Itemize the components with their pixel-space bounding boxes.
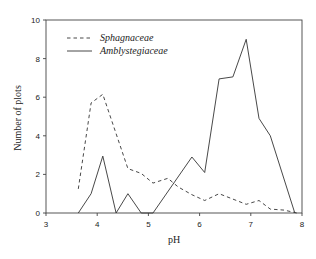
y-axis-ticks: 0246810 — [31, 16, 46, 218]
y-axis-label: Number of plots — [12, 85, 23, 151]
legend: Sphagnaceae Amblystegiaceae — [67, 32, 168, 56]
legend-label-amblystegiaceae: Amblystegiaceae — [99, 45, 168, 56]
y-tick-label: 0 — [36, 209, 41, 218]
x-tick-label: 6 — [197, 220, 202, 229]
y-tick-label: 2 — [36, 170, 41, 179]
y-tick-label: 8 — [36, 55, 41, 64]
plot-border — [46, 20, 302, 213]
legend-label-sphagnaceae: Sphagnaceae — [100, 32, 154, 43]
x-tick-label: 8 — [300, 220, 305, 229]
data-series — [78, 39, 297, 213]
x-tick-label: 4 — [95, 220, 100, 229]
series-line-sphagnaceae — [78, 94, 297, 213]
y-tick-label: 10 — [31, 16, 40, 25]
x-tick-label: 7 — [249, 220, 254, 229]
plot-frame — [46, 20, 302, 213]
line-chart: 0246810 345678 Sphagnaceae Amblystegiace… — [0, 0, 316, 259]
x-axis-label: pH — [168, 234, 180, 245]
y-tick-label: 4 — [36, 132, 41, 141]
series-line-amblystegiaceae — [78, 39, 294, 213]
x-tick-label: 5 — [146, 220, 151, 229]
x-axis-ticks: 345678 — [44, 213, 305, 229]
x-tick-label: 3 — [44, 220, 49, 229]
y-tick-label: 6 — [36, 93, 41, 102]
